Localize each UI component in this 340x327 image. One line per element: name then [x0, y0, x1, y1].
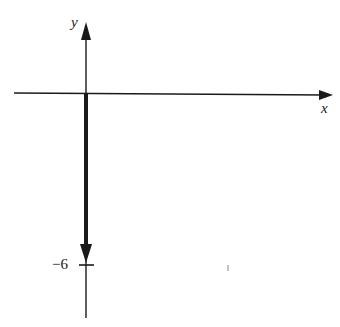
- x-axis-label: x: [321, 100, 328, 117]
- x-axis: [14, 93, 326, 95]
- y-axis-arrowhead-icon: [81, 22, 91, 40]
- y-axis-label: y: [71, 14, 78, 31]
- tick-label-minus-6: −6: [52, 256, 68, 273]
- vector-arrowhead-icon: [80, 244, 92, 263]
- axes-diagram: [0, 0, 340, 327]
- x-axis-arrowhead-icon: [319, 90, 333, 100]
